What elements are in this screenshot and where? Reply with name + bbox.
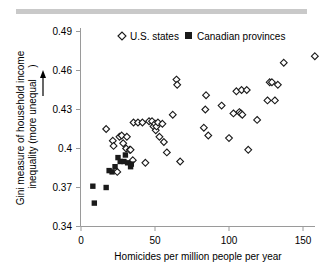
series-canadian-provinces-markers <box>90 152 134 205</box>
data-point-us-state <box>311 53 318 60</box>
y-axis-title-line2: inequality (more unequal <box>27 79 38 189</box>
y-axis-title-line1: Gini measure of household income <box>15 50 26 205</box>
data-point-canadian-province <box>90 184 95 189</box>
data-point-us-state <box>103 126 110 133</box>
data-point-canadian-province <box>109 169 114 174</box>
x-tick-label-2: 100 <box>221 235 238 246</box>
y-tick-label-1: 0.37 <box>53 182 73 193</box>
data-point-canadian-province <box>112 164 117 169</box>
data-point-us-state <box>202 106 209 113</box>
legend-marker-us-states <box>118 32 126 40</box>
data-point-us-state <box>177 158 184 165</box>
data-point-us-state <box>245 146 252 153</box>
x-axis-ticks <box>81 227 303 232</box>
data-point-us-state <box>114 169 121 176</box>
legend: U.S. states Canadian provinces <box>118 31 285 42</box>
data-point-us-state <box>174 81 181 88</box>
scatter-plot: 0.34 0.37 0.4 0.43 0.46 0.49 0 50 100 15… <box>0 0 331 279</box>
data-point-us-state <box>139 119 146 126</box>
y-axis-more-unequal-arrow-icon <box>40 70 46 96</box>
legend-label-canadian-provinces: Canadian provinces <box>197 31 285 42</box>
data-point-us-state <box>254 117 261 124</box>
data-point-us-state <box>218 102 225 109</box>
y-axis-ticks <box>76 32 81 227</box>
data-point-canadian-province <box>92 200 97 205</box>
y-tick-label-0: 0.34 <box>53 221 73 232</box>
y-axis-title-paren: ) <box>27 64 38 67</box>
data-point-us-state <box>243 87 250 94</box>
data-point-canadian-province <box>129 161 134 166</box>
series-us-states-markers <box>103 53 318 176</box>
x-tick-label-3: 150 <box>295 235 312 246</box>
x-axis-title: Homicides per million people per year <box>114 251 282 262</box>
x-tick-label-1: 50 <box>149 235 161 246</box>
data-point-us-state <box>271 97 278 104</box>
data-point-us-state <box>160 139 167 146</box>
data-point-us-state <box>226 135 233 142</box>
data-point-us-state <box>280 59 287 66</box>
chart-figure: 0.34 0.37 0.4 0.43 0.46 0.49 0 50 100 15… <box>0 0 331 279</box>
legend-label-us-states: U.S. states <box>130 31 179 42</box>
data-point-canadian-province <box>123 152 128 157</box>
data-point-us-state <box>200 124 207 131</box>
data-point-us-state <box>163 149 170 156</box>
y-tick-label-3: 0.43 <box>53 104 73 115</box>
x-tick-label-0: 0 <box>78 235 84 246</box>
y-tick-label-4: 0.46 <box>53 65 73 76</box>
y-tick-label-2: 0.4 <box>58 143 72 154</box>
legend-marker-canadian-provinces <box>185 32 192 39</box>
data-point-us-state <box>142 159 149 166</box>
data-point-us-state <box>203 92 210 99</box>
data-point-us-state <box>230 110 237 117</box>
data-point-us-state <box>205 132 212 139</box>
data-point-us-state <box>169 111 176 118</box>
y-tick-label-5: 0.49 <box>53 26 73 37</box>
data-point-canadian-province <box>103 185 108 190</box>
data-point-us-state <box>264 97 271 104</box>
data-point-us-state <box>110 143 117 150</box>
data-point-us-state <box>156 133 163 140</box>
